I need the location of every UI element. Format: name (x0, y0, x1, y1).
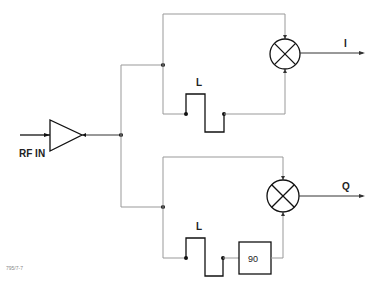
arrow-right-icon (359, 51, 365, 55)
delay-label-lower: L (196, 221, 202, 232)
figure-footnote: 795/7-7 (6, 265, 23, 271)
upper-branch: L (163, 14, 287, 132)
arrow-right-icon (359, 194, 365, 198)
mixer-icon (270, 39, 300, 69)
delay-line-upper (186, 94, 224, 132)
lower-branch: L 90 (163, 157, 285, 276)
amplifier-icon (50, 120, 82, 151)
q-output-label: Q (342, 181, 350, 192)
phase-shifter-label: 90 (248, 254, 258, 264)
mixer-icon (267, 180, 299, 212)
delay-label-upper: L (196, 77, 202, 88)
rf-in-label: RF IN (19, 148, 45, 159)
rf-input: RF IN (19, 133, 50, 159)
i-output-label: I (344, 38, 347, 49)
delay-line-lower (186, 238, 223, 276)
block-diagram: RF IN L I (0, 0, 376, 289)
